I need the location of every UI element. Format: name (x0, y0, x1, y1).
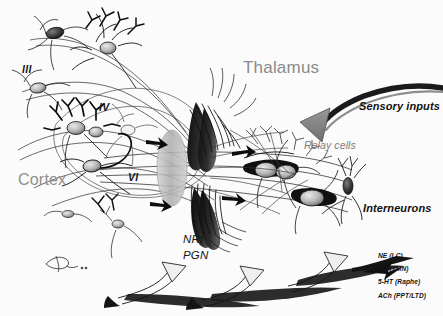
figure-canvas: Thalamus Cortex III IV VI Sensory inputs… (0, 0, 443, 316)
neuroanatomy-illustration (0, 0, 443, 316)
label-nrt: NRt (183, 234, 203, 246)
label-cortex: Cortex (18, 172, 66, 188)
legend-item-ne: NE (LC) (378, 252, 426, 259)
legend-item-5ht: 5-HT (Raphe) (378, 278, 426, 285)
label-relay-cells: Relay cells (304, 140, 356, 151)
label-cortical-layer-4: IV (99, 102, 110, 113)
label-pgn: PGN (183, 250, 209, 262)
neuromodulator-legend: NE (LC) HA (TMN) 5-HT (Raphe) ACh (PPT/L… (378, 252, 426, 299)
label-sensory-inputs: Sensory inputs (359, 101, 440, 112)
label-interneurons: Interneurons (363, 203, 431, 214)
label-cortical-layer-3: III (22, 64, 32, 75)
legend-item-ach: ACh (PPT/LTD) (378, 292, 426, 299)
label-thalamus: Thalamus (243, 59, 319, 76)
label-cortical-layer-6: VI (128, 172, 139, 183)
legend-item-ha: HA (TMN) (378, 265, 426, 272)
